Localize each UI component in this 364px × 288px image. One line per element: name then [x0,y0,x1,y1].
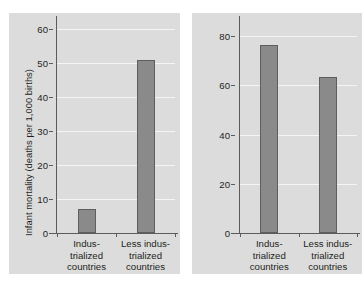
bar [78,209,96,233]
category-label-line: Indus- [240,238,299,250]
y-axis-tick-mark [231,36,235,37]
gridline [57,63,175,64]
y-axis-tick-label: 60 [219,80,230,91]
gridline [240,135,357,136]
bar [137,60,155,233]
y-axis-tick-label: 80 [219,31,230,42]
y-axis-tick-mark [49,131,53,132]
y-axis-tick-mark [49,199,53,200]
y-axis-tick-label: 40 [219,129,230,140]
x-axis-category-label: Indus-trializedcountries [240,238,299,273]
x-axis-category-labels: Indus-trializedcountriesLess indus-trial… [57,238,175,273]
gridline [240,36,357,37]
y-axis-tick-label: 60 [37,24,48,35]
x-axis-category-label: Less indus-trializedcountries [116,238,175,273]
category-label-line: countries [240,261,299,273]
y-axis-tick-label: 0 [43,228,48,239]
y-axis-tick-label: 0 [225,228,230,239]
y-axis-tick-mark [231,184,235,185]
y-axis-tick-mark [49,165,53,166]
y-axis-line [239,16,240,234]
y-axis-tick-label: 40 [37,92,48,103]
category-label-line: Indus- [57,238,116,250]
category-label-line: trialized [240,250,299,262]
bar [319,77,337,233]
gridline [240,85,357,86]
chart-panel-life-expectancy: Life expectancy (years) 020406080 Indus-… [182,0,364,288]
x-axis-tick-mark [116,233,117,237]
y-axis-tick-label: 20 [37,160,48,171]
x-axis-line [52,233,178,234]
y-axis-tick-label: 10 [37,194,48,205]
gridline [57,199,175,200]
x-axis-tick-mark [175,233,176,237]
gridline [57,131,175,132]
bar [260,45,278,233]
y-axis-tick-labels: 020406080 [204,19,230,233]
x-axis-tick-mark [57,233,58,237]
y-axis-tick-labels: 0102030405060 [22,19,48,233]
y-axis-tick-label: 50 [37,58,48,69]
category-label-line: countries [116,261,175,273]
category-label-line: trialized [57,250,116,262]
plot-area [57,19,175,233]
y-axis-tick-label: 30 [37,126,48,137]
category-label-line: countries [299,261,358,273]
chart-panel-infant-mortality: Infant mortality (deaths per 1,000 birth… [0,0,182,288]
gridline [57,29,175,30]
y-axis-tick-label: 20 [219,178,230,189]
category-label-line: Less indus- [299,238,358,250]
x-axis-category-label: Less indus-trializedcountries [299,238,358,273]
y-axis-tick-mark [49,63,53,64]
gridline [240,184,357,185]
x-axis-category-labels: Indus-trializedcountriesLess indus-trial… [240,238,357,273]
y-axis-tick-mark [231,85,235,86]
plot-area [240,19,357,233]
figure-container: Infant mortality (deaths per 1,000 birth… [0,0,364,288]
x-axis-tick-mark [299,233,300,237]
gridline [57,97,175,98]
y-axis-tick-mark [49,97,53,98]
gridline [57,165,175,166]
x-axis-line [235,233,360,234]
y-axis-line [56,16,57,234]
category-label-line: countries [57,261,116,273]
y-axis-tick-mark [231,135,235,136]
y-axis-tick-mark [49,29,53,30]
category-label-line: trialized [299,250,358,262]
x-axis-category-label: Indus-trializedcountries [57,238,116,273]
category-label-line: Less indus- [116,238,175,250]
x-axis-tick-mark [240,233,241,237]
x-axis-tick-mark [357,233,358,237]
category-label-line: trialized [116,250,175,262]
